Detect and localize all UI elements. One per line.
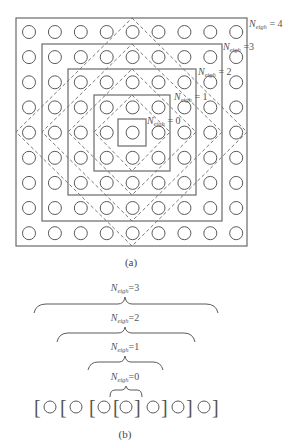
pixel [178, 227, 191, 240]
pixel [23, 151, 36, 164]
pixel [23, 202, 36, 215]
pixel [44, 401, 56, 413]
pixel [152, 26, 165, 39]
pixel [70, 401, 82, 413]
label-n3: Neigh =3 [222, 41, 254, 53]
pixel-grid [23, 26, 243, 240]
pixel [74, 126, 87, 139]
pixel [100, 126, 113, 139]
pixel [126, 101, 139, 114]
pixel [100, 227, 113, 240]
pixel [100, 176, 113, 189]
close-bracket-3: ] [212, 396, 219, 418]
pixel [178, 151, 191, 164]
pixel [204, 51, 217, 64]
pixel [230, 202, 243, 215]
pixel [178, 176, 191, 189]
pixel [98, 401, 110, 413]
pixel [100, 202, 113, 215]
pixel [204, 227, 217, 240]
pixel [152, 126, 165, 139]
pixel [23, 227, 36, 240]
pixel [126, 26, 139, 39]
pixel [230, 76, 243, 89]
close-bracket-2: ] [186, 396, 193, 418]
figure-a: Neigh = 4 Neigh =3 Neigh = 2 Neigh = 1 N… [16, 18, 283, 269]
pixel [100, 151, 113, 164]
pixel [48, 227, 61, 240]
pixel [152, 176, 165, 189]
open-bracket-2: [ [60, 396, 67, 418]
pixel [147, 401, 159, 413]
pixel [100, 101, 113, 114]
label-b-n0: Neigh=0 [110, 371, 140, 383]
pixel [178, 26, 191, 39]
pixel [178, 126, 191, 139]
pixel-center [120, 401, 132, 413]
pixel [230, 151, 243, 164]
brace-n3 [34, 297, 218, 313]
pixel [198, 401, 210, 413]
brace-n1 [88, 356, 163, 370]
pixel [204, 26, 217, 39]
pixel [23, 176, 36, 189]
label-b-n1: Neigh=1 [110, 341, 140, 353]
label-n4: Neigh = 4 [248, 18, 283, 30]
pixel [230, 126, 243, 139]
pixel [74, 51, 87, 64]
pixel [178, 76, 191, 89]
pixel [152, 101, 165, 114]
close-bracket-0: ] [134, 396, 141, 418]
pixel [152, 151, 165, 164]
pixel [74, 76, 87, 89]
pixel [178, 51, 191, 64]
open-bracket-0: [ [113, 396, 120, 418]
label-n1: Neigh = 1 [173, 91, 208, 103]
pixel [126, 126, 139, 139]
pixel [74, 227, 87, 240]
pixel [23, 51, 36, 64]
pixel [23, 101, 36, 114]
pixel [48, 176, 61, 189]
pixel [126, 151, 139, 164]
pixel [23, 126, 36, 139]
pixel [126, 176, 139, 189]
pixel [204, 101, 217, 114]
pixel [204, 126, 217, 139]
neighborhood-diagram: Neigh = 4 Neigh =3 Neigh = 2 Neigh = 1 N… [0, 0, 299, 447]
pixel [152, 51, 165, 64]
pixel [100, 26, 113, 39]
pixel [74, 202, 87, 215]
open-bracket-3: [ [34, 396, 41, 418]
pixel [204, 202, 217, 215]
pixel [48, 76, 61, 89]
label-n0: Neigh = 0 [146, 115, 181, 127]
pixel [126, 227, 139, 240]
pixel [230, 227, 243, 240]
pixel [230, 101, 243, 114]
pixel [74, 151, 87, 164]
pixel [204, 151, 217, 164]
pixel [126, 76, 139, 89]
pixel [100, 51, 113, 64]
pixel [230, 176, 243, 189]
pixel [48, 126, 61, 139]
pixel [23, 26, 36, 39]
label-b-n3: Neigh=3 [110, 282, 140, 294]
pixel [172, 401, 184, 413]
pixel [152, 202, 165, 215]
pixel [48, 202, 61, 215]
close-bracket-1: ] [161, 396, 168, 418]
pixel [23, 76, 36, 89]
figure-b: Neigh=3 Neigh=2 Neigh=1 Neigh=0 [ [ [ [ … [34, 282, 219, 441]
pixel [48, 151, 61, 164]
pixel-row: [ [ [ [ ] ] ] ] [34, 396, 219, 418]
pixel [48, 101, 61, 114]
caption-a: (a) [125, 256, 138, 269]
label-n2: Neigh = 2 [197, 66, 232, 78]
pixel [126, 51, 139, 64]
pixel [100, 76, 113, 89]
open-bracket-1: [ [89, 396, 96, 418]
pixel [178, 202, 191, 215]
pixel [204, 176, 217, 189]
